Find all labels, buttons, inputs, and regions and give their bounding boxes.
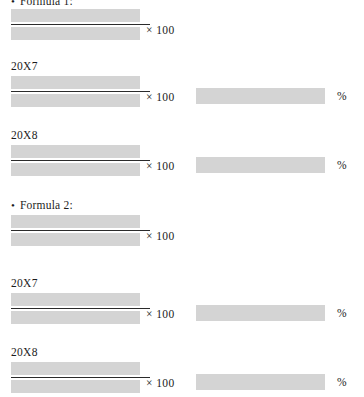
numerator-redaction xyxy=(11,9,140,22)
denominator-redaction xyxy=(11,311,140,324)
denominator-redaction xyxy=(11,380,140,393)
multiplier-label: × 100 xyxy=(146,160,175,173)
formula-block: × 100 % xyxy=(0,145,364,193)
fraction-bar xyxy=(11,377,150,378)
percent-label: % xyxy=(337,307,347,320)
fraction xyxy=(11,76,140,107)
year-label-20x8: 20X8 xyxy=(11,346,38,359)
result-redaction xyxy=(196,374,325,390)
bullet-icon: • xyxy=(11,0,20,8)
denominator-redaction xyxy=(11,94,140,107)
result-redaction xyxy=(196,88,325,104)
multiplier-label: × 100 xyxy=(146,230,175,243)
denominator-redaction xyxy=(11,233,140,246)
fraction-bar xyxy=(11,230,150,231)
fraction-bar xyxy=(11,24,150,25)
year-label-20x8: 20X8 xyxy=(11,129,38,142)
result-redaction xyxy=(196,305,325,321)
percent-label: % xyxy=(337,376,347,389)
fraction xyxy=(11,9,140,40)
fraction-bar xyxy=(11,308,150,309)
formula-block: × 100 xyxy=(0,215,364,263)
year-label-20x7: 20X7 xyxy=(11,60,38,73)
multiplier-label: × 100 xyxy=(146,91,175,104)
fraction xyxy=(11,215,140,246)
formula-block: × 100 xyxy=(0,9,364,57)
denominator-redaction xyxy=(11,27,140,40)
fraction-bar xyxy=(11,91,150,92)
numerator-redaction xyxy=(11,362,140,375)
numerator-redaction xyxy=(11,145,140,158)
section-heading-formula-1: •Formula 1: xyxy=(11,0,73,8)
denominator-redaction xyxy=(11,163,140,176)
numerator-redaction xyxy=(11,215,140,228)
fraction xyxy=(11,145,140,176)
year-label-20x7: 20X7 xyxy=(11,277,38,290)
percent-label: % xyxy=(337,159,347,172)
numerator-redaction xyxy=(11,293,140,306)
percent-label: % xyxy=(337,90,347,103)
bullet-icon: • xyxy=(11,199,20,212)
multiplier-label: × 100 xyxy=(146,377,175,390)
section-heading-label: Formula 1: xyxy=(20,0,73,7)
fraction-bar xyxy=(11,160,150,161)
formula-block: × 100 % xyxy=(0,362,364,397)
document-page: •Formula 1: × 100 20X7 × 100 % 20X8 × 10… xyxy=(0,0,364,397)
multiplier-label: × 100 xyxy=(146,308,175,321)
fraction xyxy=(11,293,140,324)
section-heading-label: Formula 2: xyxy=(20,199,73,211)
fraction xyxy=(11,362,140,393)
formula-block: × 100 % xyxy=(0,76,364,124)
formula-block: × 100 % xyxy=(0,293,364,341)
numerator-redaction xyxy=(11,76,140,89)
section-heading-formula-2: •Formula 2: xyxy=(11,199,73,212)
result-redaction xyxy=(196,157,325,173)
multiplier-label: × 100 xyxy=(146,24,175,37)
